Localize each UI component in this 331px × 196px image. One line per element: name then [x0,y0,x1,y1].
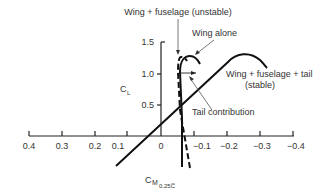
annotation-stable: Wing + fuselage + tail (stable) [226,69,313,90]
y-axis-label: C L [120,84,131,96]
svg-text:M: M [152,179,158,186]
svg-text:C: C [120,84,127,94]
svg-text:−0.4: −0.4 [287,141,305,151]
svg-text:−0.3: −0.3 [253,141,271,151]
svg-text:−0.1: −0.1 [193,141,211,151]
svg-text:0: 0 [158,141,163,151]
svg-text:0.4: 0.4 [23,141,36,151]
svg-text:1.5: 1.5 [141,37,154,47]
svg-text:C: C [145,175,152,185]
svg-text:1.0: 1.0 [141,69,154,79]
svg-text:0.1: 0.1 [112,141,125,151]
svg-text:0.5: 0.5 [141,100,154,110]
x-tick-labels: 0.4 0.3 0.2 0.1 0 −0.1 −0.2 −0.3 −0.4 [23,141,305,151]
svg-text:Wing alone: Wing alone [192,28,237,38]
svg-text:0.25C̅: 0.25C̅ [159,183,176,189]
y-tick-labels: 0.5 1.0 1.5 [141,37,154,110]
svg-text:0.3: 0.3 [56,141,69,151]
chart: 0.4 0.3 0.2 0.1 0 −0.1 −0.2 −0.3 −0.4 0.… [0,0,331,196]
svg-text:Wing + fuselage + tail: Wing + fuselage + tail [226,69,313,79]
svg-text:L: L [127,90,131,96]
annotation-wing-alone: Wing alone [192,28,237,55]
svg-text:Wing + fuselage (unstable): Wing + fuselage (unstable) [124,7,231,17]
svg-text:(stable): (stable) [245,80,275,90]
svg-text:−0.2: −0.2 [220,141,238,151]
x-axis-label: C M 0.25C̅ [145,175,176,189]
svg-text:Tail contribution: Tail contribution [192,107,255,117]
tail-contribution-arrow [180,71,196,75]
svg-text:0.2: 0.2 [89,141,102,151]
